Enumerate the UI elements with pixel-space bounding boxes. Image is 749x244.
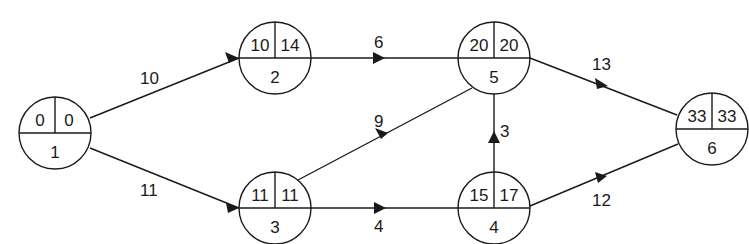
node-es: 15 <box>470 186 489 205</box>
node-ls: 20 <box>500 36 519 55</box>
node-id: 5 <box>489 68 498 87</box>
edge-label-3-4: 4 <box>374 217 383 236</box>
edge-label-4-5: 3 <box>500 122 509 141</box>
node-id: 4 <box>489 218 498 237</box>
edge-label-2-5: 6 <box>374 33 383 52</box>
node-1: 0 0 1 <box>19 97 91 169</box>
edge-1-3 <box>90 148 239 208</box>
node-es: 10 <box>251 36 270 55</box>
node-id: 3 <box>270 218 279 237</box>
node-ls: 33 <box>718 107 737 126</box>
node-4: 15 17 4 <box>458 172 530 244</box>
edge-label-1-3: 11 <box>140 181 158 200</box>
node-ls: 17 <box>500 186 519 205</box>
node-ls: 11 <box>281 186 299 205</box>
node-es: 33 <box>688 107 707 126</box>
edge-label-3-5: 9 <box>374 112 383 131</box>
edge-label-1-2: 10 <box>140 69 159 88</box>
node-ls: 14 <box>281 36 300 55</box>
edges <box>90 52 678 214</box>
node-6: 33 33 6 <box>676 93 748 165</box>
edge-1-2 <box>90 58 239 118</box>
node-es: 20 <box>470 36 489 55</box>
edge-label-4-6: 12 <box>592 191 611 210</box>
node-es: 0 <box>35 111 44 130</box>
arrow-icon <box>488 131 500 143</box>
node-id: 2 <box>270 68 279 87</box>
arrow-icon <box>595 172 607 183</box>
arrow-icon <box>226 203 239 213</box>
arrow-icon <box>373 52 385 64</box>
node-id: 1 <box>50 143 59 162</box>
node-2: 10 14 2 <box>239 22 311 94</box>
network-diagram: 10 11 6 9 4 3 13 12 0 0 1 10 14 2 11 11 … <box>0 0 749 244</box>
node-ls: 0 <box>64 111 73 130</box>
edge-label-5-6: 13 <box>592 55 611 74</box>
arrow-icon <box>374 202 386 214</box>
node-id: 6 <box>707 139 716 158</box>
arrow-icon <box>225 52 239 63</box>
node-5: 20 20 5 <box>458 22 530 94</box>
node-3: 11 11 3 <box>239 172 311 244</box>
node-es: 11 <box>251 186 269 205</box>
